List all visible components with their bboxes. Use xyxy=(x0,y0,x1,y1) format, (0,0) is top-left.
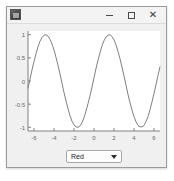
y-tick-label: 1 xyxy=(22,32,26,38)
x-tick-label: -2 xyxy=(71,135,77,141)
x-tick-label: 0 xyxy=(92,135,96,141)
close-button[interactable]: ✕ xyxy=(142,7,164,23)
maximize-icon xyxy=(128,12,135,19)
y-axis-tick-labels: -1-0.500.51 xyxy=(15,32,26,131)
y-tick-label: -0.5 xyxy=(15,102,26,108)
x-tick-label: 4 xyxy=(132,135,136,141)
x-tick-label: -4 xyxy=(51,135,57,141)
line-chart: -1-0.500.51 -6-4-20246 xyxy=(11,26,164,146)
maximize-button[interactable] xyxy=(120,7,142,23)
minimize-button[interactable] xyxy=(98,7,120,23)
matlab-app-icon xyxy=(10,9,21,20)
figure-window: ✕ -1-0.500.51 -6-4-20246 Red xyxy=(6,6,167,168)
x-axis-tick-labels: -6-4-20246 xyxy=(31,135,156,141)
y-tick-label: 0.5 xyxy=(17,55,26,61)
x-tick-label: 6 xyxy=(152,135,156,141)
x-tick-label: 2 xyxy=(112,135,116,141)
chart-background xyxy=(28,31,160,131)
y-tick-label: -1 xyxy=(20,125,26,131)
x-tick-label: -6 xyxy=(31,135,37,141)
title-bar[interactable]: ✕ xyxy=(7,7,166,24)
minimize-icon xyxy=(106,15,113,16)
color-select-value: Red xyxy=(71,151,84,162)
chevron-down-icon xyxy=(111,155,117,159)
plot-panel: -1-0.500.51 -6-4-20246 xyxy=(11,26,164,146)
y-tick-label: 0 xyxy=(22,79,26,85)
client-area: -1-0.500.51 -6-4-20246 Red xyxy=(7,24,166,167)
color-select-dropdown[interactable]: Red xyxy=(66,150,122,163)
